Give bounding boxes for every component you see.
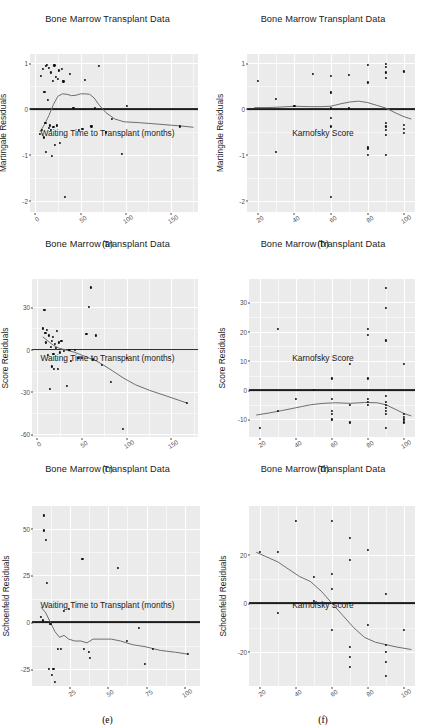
y-tick-label: 1 xyxy=(241,60,245,67)
x-tick-label: 80 xyxy=(365,214,375,224)
y-axis-ticks-e: 50250-25 xyxy=(12,506,32,686)
x-tick-label: 150 xyxy=(166,213,179,225)
plot-body-e: 50250-25Schoenfeld Residuals255075100Wai… xyxy=(0,476,215,712)
chart-panel-d: Bone Marrow Transplant Data3020100-10Sco… xyxy=(215,225,431,450)
x-tick-label: 100 xyxy=(400,438,413,450)
y-axis-title-text: Schoenfeld Residuals xyxy=(0,555,10,636)
loess-smooth-curve xyxy=(32,506,200,686)
x-tick-label: 100 xyxy=(122,438,135,450)
plot-title-e: Bone Marrow Transplant Data xyxy=(45,464,170,474)
chart-panel-a: Bone Marrow Transplant Data10-1-2Marting… xyxy=(0,0,215,225)
x-axis-title-a: Waiting Time to Transplant (months) xyxy=(0,128,215,138)
y-tick-label: 1 xyxy=(24,60,28,67)
x-tick-label: 75 xyxy=(144,688,154,698)
y-tick-label: 20 xyxy=(240,551,247,558)
x-tick-label: 80 xyxy=(365,439,375,449)
plot-title-b: Bone Marrow Transplant Data xyxy=(261,14,386,24)
plot-title-d: Bone Marrow Transplant Data xyxy=(261,239,386,249)
chart-panel-e: Bone Marrow Transplant Data50250-25Schoe… xyxy=(0,450,215,702)
x-tick-label: 50 xyxy=(78,214,88,224)
x-tick-label: 0 xyxy=(34,215,41,223)
x-axis-title-b: Karnofsky Score xyxy=(215,128,431,138)
loess-smooth-curve xyxy=(249,506,415,686)
y-tick-label: -10 xyxy=(238,416,247,423)
x-tick-label: 100 xyxy=(400,213,413,225)
y-tick-label: -30 xyxy=(21,388,30,395)
chart-panel-c: Bone Marrow Transplant Data300-30-60Scor… xyxy=(0,225,215,450)
y-tick-label: -1 xyxy=(22,151,28,158)
plot-title-c: Bone Marrow Transplant Data xyxy=(45,239,170,249)
x-axis-title-e: Waiting Time to Transplant (months) xyxy=(0,600,215,610)
x-tick-label: 60 xyxy=(329,439,339,449)
y-tick-label: -1 xyxy=(239,151,245,158)
y-tick-label: 0 xyxy=(26,346,30,353)
x-tick-label: 20 xyxy=(257,439,267,449)
x-tick-label: 40 xyxy=(291,214,301,224)
x-tick-label: 20 xyxy=(255,214,265,224)
x-tick-label: 60 xyxy=(328,214,338,224)
chart-panel-f: Bone Marrow Transplant Data200-20Schoenf… xyxy=(215,450,431,702)
y-axis-title-text: Schoenfeld Residuals xyxy=(217,555,227,636)
x-tick-label: 100 xyxy=(400,687,413,699)
y-tick-label: -20 xyxy=(238,648,247,655)
x-tick-label: 100 xyxy=(180,687,193,699)
plot-area-f xyxy=(249,506,415,686)
subcaption-f: (f) xyxy=(215,714,431,725)
y-tick-label: -25 xyxy=(21,666,30,673)
x-tick-label: 60 xyxy=(329,688,339,698)
x-tick-label: 20 xyxy=(257,688,267,698)
y-axis-title-f: Schoenfeld Residuals xyxy=(215,506,229,686)
y-tick-label: 30 xyxy=(240,299,247,306)
x-tick-label: 80 xyxy=(365,688,375,698)
x-tick-label: 50 xyxy=(79,439,89,449)
x-axis-ticks-f: 20406080100 xyxy=(215,687,431,701)
y-tick-label: 0 xyxy=(24,105,28,112)
y-axis-ticks-f: 200-20 xyxy=(229,506,249,686)
chart-panel-b: Bone Marrow Transplant Data10-1-2Marting… xyxy=(215,0,431,225)
y-tick-label: 50 xyxy=(23,525,30,532)
x-tick-label: 100 xyxy=(121,213,134,225)
plot-body-a: 10-1-2Martingale Residuals050100150Waiti… xyxy=(0,26,215,235)
plot-title-f: Bone Marrow Transplant Data xyxy=(261,464,386,474)
x-tick-label: 0 xyxy=(36,440,43,448)
x-tick-label: 150 xyxy=(167,438,180,450)
y-tick-label: 0 xyxy=(243,387,247,394)
y-tick-label: 30 xyxy=(23,304,30,311)
plot-body-b: 10-1-2Martingale Residuals20406080100Kar… xyxy=(215,26,431,235)
y-tick-label: -2 xyxy=(22,197,28,204)
plot-title-a: Bone Marrow Transplant Data xyxy=(45,14,170,24)
y-axis-title-e: Schoenfeld Residuals xyxy=(0,506,12,686)
plot-body-d: 3020100-10Score Residuals20406080100Karn… xyxy=(215,251,431,460)
plot-body-f: 200-20Schoenfeld Residuals20406080100Kar… xyxy=(215,476,431,712)
plot-area-e xyxy=(32,506,200,686)
x-axis-ticks-e: 255075100 xyxy=(0,687,215,701)
x-tick-label: 40 xyxy=(293,688,303,698)
x-axis-title-f: Karnofsky Score xyxy=(215,600,431,610)
y-tick-label: 20 xyxy=(240,328,247,335)
y-tick-label: -2 xyxy=(239,197,245,204)
x-tick-label: 40 xyxy=(293,439,303,449)
y-tick-label: 0 xyxy=(26,619,30,626)
subcaption-e: (e) xyxy=(0,714,215,725)
x-tick-label: 25 xyxy=(67,688,77,698)
y-tick-label: -60 xyxy=(21,431,30,438)
x-tick-label: 50 xyxy=(105,688,115,698)
y-tick-label: 0 xyxy=(241,105,245,112)
x-axis-title-c: Waiting Time to Transplant (months) xyxy=(0,353,215,363)
plot-body-c: 300-30-60Score Residuals050100150Waiting… xyxy=(0,251,215,460)
x-axis-title-d: Karnofsky Score xyxy=(215,353,431,363)
y-tick-label: 25 xyxy=(23,572,30,579)
